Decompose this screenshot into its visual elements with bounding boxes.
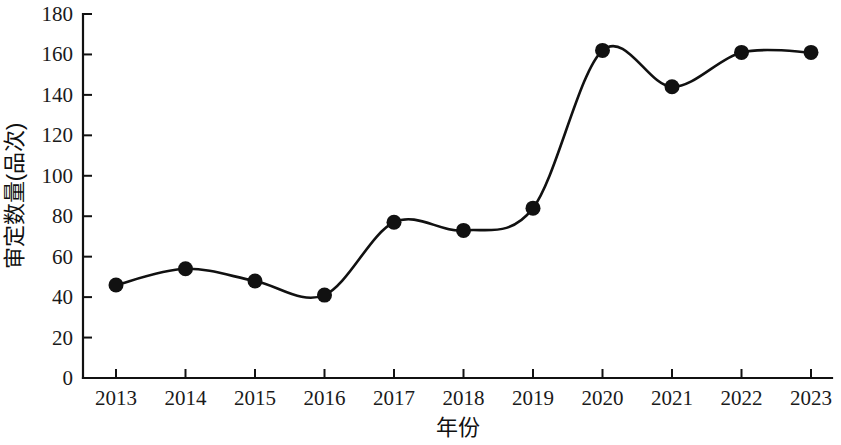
y-tick-label: 160 — [42, 42, 74, 66]
y-tick-label: 100 — [42, 164, 74, 188]
data-point — [178, 261, 193, 276]
data-point — [804, 45, 819, 60]
data-point — [387, 215, 402, 230]
x-tick-label: 2020 — [582, 386, 624, 410]
line-chart: 020406080100120140160180 201320142015201… — [0, 0, 841, 445]
y-tick-label: 180 — [42, 2, 74, 26]
x-tick-label: 2019 — [512, 386, 554, 410]
y-tick-label: 20 — [52, 326, 73, 350]
x-tick-label: 2018 — [443, 386, 485, 410]
x-tick-label: 2013 — [95, 386, 137, 410]
data-point — [456, 223, 471, 238]
y-tick-label: 80 — [52, 204, 73, 228]
y-tick-label: 40 — [52, 285, 73, 309]
x-tick-label: 2023 — [790, 386, 832, 410]
x-tick-label: 2014 — [165, 386, 208, 410]
data-point — [317, 288, 332, 303]
x-axis-title: 年份 — [436, 415, 480, 440]
x-tick-label: 2017 — [373, 386, 415, 410]
data-point — [665, 79, 680, 94]
y-tick-label: 0 — [63, 366, 74, 390]
x-tick-label: 2016 — [304, 386, 346, 410]
x-tick-label: 2022 — [721, 386, 763, 410]
y-axis-title: 审定数量(品次) — [2, 123, 27, 270]
y-tick-label: 120 — [42, 123, 74, 147]
x-tick-label: 2015 — [234, 386, 276, 410]
data-point — [109, 277, 124, 292]
data-point — [734, 45, 749, 60]
data-point — [526, 201, 541, 216]
x-axis-tick-labels: 2013201420152016201720182019202020212022… — [95, 386, 832, 410]
x-tick-label: 2021 — [651, 386, 693, 410]
data-point — [595, 43, 610, 58]
chart-container: 020406080100120140160180 201320142015201… — [0, 0, 841, 445]
y-tick-label: 140 — [42, 83, 74, 107]
data-point — [248, 273, 263, 288]
y-tick-label: 60 — [52, 245, 73, 269]
